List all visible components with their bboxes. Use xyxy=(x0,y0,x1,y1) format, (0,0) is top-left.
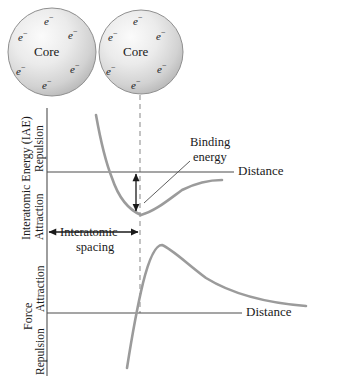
upper-plot-y-axis-outer-label: Interatomic Energy (IAE) xyxy=(20,116,32,240)
electron-symbol: e− xyxy=(133,16,142,27)
electron-charge: − xyxy=(162,61,167,70)
electron-symbol: e− xyxy=(68,30,77,41)
lower-plot-repulsion-label: Repulsion xyxy=(35,328,47,375)
electron-charge: − xyxy=(138,13,143,22)
electron-charge: − xyxy=(136,77,141,86)
upper-plot-repulsion-label: Repulsion xyxy=(34,125,46,172)
left-atom-core-label: Core xyxy=(34,45,59,58)
binding-energy-label-line2: energy xyxy=(193,151,227,164)
electron-symbol: e− xyxy=(131,80,140,91)
electron-symbol: e− xyxy=(157,64,166,75)
interatomic-energy-force-figure: Core Core e− e− e− e− e− e− e− e− e− e− … xyxy=(0,0,347,377)
interatomic-spacing-label-line2: spacing xyxy=(76,241,114,254)
electron-charge: − xyxy=(161,28,166,37)
electron-charge: − xyxy=(75,61,80,70)
electron-symbol: e− xyxy=(70,64,79,75)
electron-charge: − xyxy=(73,27,78,36)
electron-charge: − xyxy=(49,13,54,22)
electron-charge: − xyxy=(47,77,52,86)
electron-symbol: e− xyxy=(42,80,51,91)
lower-plot-y-axis-outer-label: Force xyxy=(22,303,34,330)
electron-symbol: e− xyxy=(156,31,165,42)
electron-symbol: e− xyxy=(106,66,115,77)
interatomic-energy-curve xyxy=(96,115,222,215)
right-atom-core-label: Core xyxy=(123,45,148,58)
upper-plot-attraction-label: Attraction xyxy=(34,193,46,240)
electron-charge: − xyxy=(111,63,116,72)
binding-energy-label-line1: Binding xyxy=(190,136,230,149)
lower-plot-x-axis-label: Distance xyxy=(246,305,291,318)
binding-energy-leader-line xyxy=(144,161,190,203)
upper-plot-x-axis-label: Distance xyxy=(238,164,283,177)
electron-symbol: e− xyxy=(44,16,53,27)
electron-symbol: e− xyxy=(16,66,25,77)
electron-charge: − xyxy=(23,29,28,38)
interatomic-spacing-label-line1: Interatomic xyxy=(60,226,118,239)
electron-symbol: e− xyxy=(18,32,27,43)
electron-charge: − xyxy=(113,29,118,38)
electron-symbol: e− xyxy=(108,32,117,43)
electron-charge: − xyxy=(21,63,26,72)
lower-plot-attraction-label: Attraction xyxy=(35,265,47,312)
